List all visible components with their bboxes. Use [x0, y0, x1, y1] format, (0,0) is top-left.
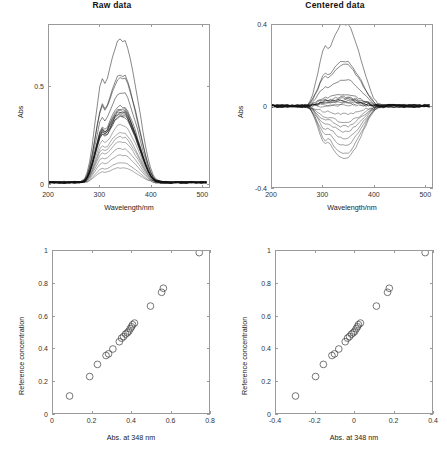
y-tick-mark	[275, 381, 278, 382]
y-tick-label: 0.2	[245, 378, 271, 385]
y-tick-label: 0.8	[22, 279, 48, 286]
x-tick-mark-top	[322, 24, 323, 27]
y-tick-mark	[275, 414, 278, 415]
x-tick-mark-top	[374, 24, 375, 27]
spectrum-line	[49, 116, 206, 183]
centered-scatter-xlabel: Abs. at 348 nm	[330, 433, 378, 442]
x-tick-label: 400	[145, 191, 157, 198]
x-tick-label: 200	[42, 191, 54, 198]
y-tick-mark-right	[207, 316, 210, 317]
spectrum-line	[49, 124, 206, 183]
x-tick-label: -0.4	[269, 417, 281, 424]
centered-spectrum-line	[272, 104, 429, 127]
y-tick-label: 0.4	[241, 21, 267, 28]
x-tick-label: 300	[317, 191, 329, 198]
y-tick-mark	[52, 250, 55, 251]
scatter-point	[373, 303, 380, 310]
panel-centered-data: Centered data Abs Wavelength/nm 20030040…	[223, 0, 447, 230]
y-tick-mark	[52, 414, 55, 415]
x-tick-mark-top	[99, 24, 100, 27]
scatter-point	[110, 346, 117, 353]
y-tick-mark-right	[430, 250, 433, 251]
centered-scatter-plot-area	[275, 250, 433, 414]
x-tick-mark-top	[131, 250, 132, 253]
scatter-point	[386, 285, 393, 292]
raw-scatter-xlabel: Abs. at 348 nm	[107, 433, 155, 442]
centered-spectrum-line	[272, 61, 429, 107]
scatter-point	[86, 373, 93, 380]
y-tick-label: 0.5	[18, 83, 44, 90]
x-tick-label: 0	[352, 417, 356, 424]
panel-raw-data: Raw data Abs Wavelength/nm 2003004005000…	[0, 0, 224, 230]
scatter-point	[422, 251, 429, 256]
centered-spectrum-line	[272, 104, 429, 153]
panel-centered-scatter: Reference concentration Abs. at 348 nm -…	[223, 230, 447, 460]
x-tick-mark	[99, 185, 100, 188]
y-tick-mark	[275, 316, 278, 317]
y-tick-mark-right	[207, 86, 210, 87]
x-tick-label: 200	[265, 191, 277, 198]
y-tick-mark	[271, 106, 274, 107]
spectrum-line	[49, 78, 206, 184]
scatter-point	[292, 393, 299, 400]
x-tick-label: 0.2	[389, 417, 399, 424]
x-tick-mark	[171, 411, 172, 414]
y-tick-mark-right	[430, 316, 433, 317]
centered-data-plot-area	[271, 24, 433, 188]
y-tick-mark	[275, 283, 278, 284]
y-tick-mark-right	[430, 283, 433, 284]
x-tick-mark	[151, 185, 152, 188]
y-tick-mark-right	[430, 381, 433, 382]
centered-data-xlabel: Wavelength/nm	[327, 203, 377, 212]
centered-data-spectra	[272, 25, 432, 187]
y-tick-mark-right	[430, 414, 433, 415]
spectrum-line	[49, 114, 206, 183]
panel-centered-data-title: Centered data	[223, 0, 447, 10]
x-tick-label: 0.4	[126, 417, 136, 424]
y-tick-mark-right	[430, 188, 433, 189]
x-tick-label: 300	[94, 191, 106, 198]
y-tick-label: 1	[245, 247, 271, 254]
centered-scatter-points	[276, 251, 432, 413]
scatter-point	[66, 393, 73, 400]
spectrum-line	[49, 136, 206, 183]
centered-spectrum-line	[272, 25, 429, 107]
x-tick-mark	[374, 185, 375, 188]
spectrum-line	[49, 142, 206, 184]
scatter-point	[335, 346, 342, 353]
y-tick-mark	[271, 24, 274, 25]
y-tick-mark	[48, 184, 51, 185]
y-tick-mark-right	[207, 381, 210, 382]
x-tick-mark-top	[171, 250, 172, 253]
x-tick-label: 400	[368, 191, 380, 198]
y-tick-label: 0	[241, 103, 267, 110]
x-tick-mark-top	[433, 250, 434, 253]
centered-spectrum-line	[272, 64, 429, 107]
x-tick-mark	[394, 411, 395, 414]
x-tick-mark-top	[202, 24, 203, 27]
panel-raw-scatter: Reference concentration Abs. at 348 nm 0…	[0, 230, 224, 460]
y-tick-mark-right	[430, 348, 433, 349]
y-tick-mark-right	[207, 184, 210, 185]
scatter-point	[147, 303, 154, 310]
x-tick-label: 0.8	[205, 417, 215, 424]
raw-data-spectra	[49, 25, 209, 187]
x-tick-mark	[322, 185, 323, 188]
y-tick-label: 0.6	[22, 312, 48, 319]
x-tick-label: 500	[419, 191, 431, 198]
spectrum-line	[49, 93, 206, 183]
scatter-point	[160, 285, 167, 292]
y-tick-mark-right	[207, 348, 210, 349]
spectrum-line	[49, 111, 206, 183]
x-tick-mark	[92, 411, 93, 414]
y-tick-mark	[52, 381, 55, 382]
spectrum-line	[49, 116, 206, 184]
x-tick-label: -0.2	[308, 417, 320, 424]
y-tick-mark-right	[207, 283, 210, 284]
spectrum-line	[49, 148, 206, 183]
spectrum-line	[49, 109, 206, 184]
y-tick-mark	[275, 348, 278, 349]
y-tick-label: 0.8	[245, 279, 271, 286]
y-tick-mark	[48, 86, 51, 87]
y-tick-mark	[52, 348, 55, 349]
